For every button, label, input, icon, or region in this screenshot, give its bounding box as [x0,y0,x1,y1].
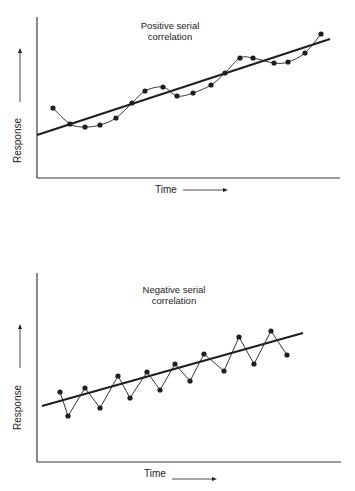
data-point [160,84,165,89]
data-point [82,124,87,129]
y-axis-label-text: Response [12,385,23,430]
data-point [115,373,120,378]
data-point [208,82,213,87]
data-point [221,368,226,373]
data-point [318,31,323,36]
arrow-right-icon [223,188,228,192]
arrow-up-icon [18,324,22,329]
data-point [236,334,241,339]
data-point [82,385,87,390]
chart-title-negative: Negative serial correlation [122,284,226,306]
positive-correlation-chart: Positive serial correlation Time Respons… [0,0,355,230]
y-axis-label-positive: Response [12,116,23,166]
data-point [250,55,255,60]
data-point [97,405,102,410]
data-point [302,50,307,55]
chart-title-line-1: Positive serial [118,20,222,31]
data-point [97,122,102,127]
chart-title-line-1: Negative serial [122,284,226,295]
data-point [57,389,62,394]
data-point [172,361,177,366]
data-point [201,351,206,356]
zigzag-line [60,331,287,416]
trend-line [37,39,330,135]
chart-title-line-2: correlation [122,295,226,306]
data-point [237,55,242,60]
x-axis-label-positive: Time [155,184,177,195]
data-point [67,121,72,126]
data-point [190,90,195,95]
smooth-curve [53,34,321,127]
data-point [142,88,147,93]
x-axis-label-text: Time [155,184,177,195]
x-axis-label-text: Time [144,468,166,479]
arrow-right-icon [212,477,217,481]
data-point [285,59,290,64]
data-point [187,378,192,383]
data-point [127,395,132,400]
arrow-up-icon [18,48,22,53]
chart-title-line-2: correlation [118,31,222,42]
data-point [65,413,70,418]
data-point [113,115,118,120]
data-point [50,105,55,110]
data-point [129,100,134,105]
y-axis-label-negative: Response [12,383,23,433]
data-point [268,328,273,333]
negative-correlation-chart: Negative serial correlation Time Respons… [0,255,355,491]
data-point [174,93,179,98]
data-point [284,352,289,357]
x-axis-label-negative: Time [144,468,166,479]
data-point [271,60,276,65]
data-point [222,70,227,75]
data-point [251,361,256,366]
chart-title-positive: Positive serial correlation [118,20,222,42]
data-point [157,387,162,392]
data-point [144,369,149,374]
y-axis-label-text: Response [12,118,23,163]
